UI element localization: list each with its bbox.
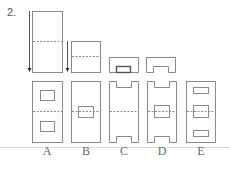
option-b-label[interactable]: B bbox=[71, 144, 101, 159]
option-c-label[interactable]: C bbox=[109, 144, 139, 159]
arrow-down-icon bbox=[28, 68, 32, 72]
option-d-figure[interactable] bbox=[148, 82, 177, 143]
option-d-label[interactable]: D bbox=[147, 144, 177, 159]
paper-step-3-cut bbox=[110, 58, 139, 73]
option-a-figure[interactable] bbox=[33, 82, 63, 143]
paper-step-4-result bbox=[147, 58, 176, 73]
paper-step-2 bbox=[66, 41, 101, 73]
option-a-label[interactable]: A bbox=[32, 144, 62, 159]
option-e-label[interactable]: E bbox=[186, 144, 216, 159]
paper-step-1 bbox=[28, 11, 63, 73]
option-e-figure[interactable] bbox=[187, 82, 216, 143]
option-c-figure[interactable] bbox=[110, 82, 139, 143]
option-b-figure[interactable] bbox=[72, 82, 101, 143]
arrow-down-icon bbox=[66, 68, 70, 72]
